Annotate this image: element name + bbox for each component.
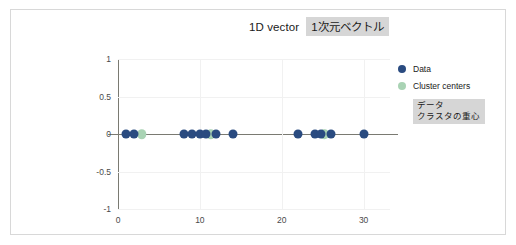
legend-annotation-japanese: データ クラスタの重心 xyxy=(413,99,485,124)
y-axis-tick-label: 0 xyxy=(106,129,111,139)
data-point xyxy=(130,130,139,139)
y-axis-tick-label: -1 xyxy=(103,204,111,214)
title-annotation-japanese: 1次元ベクトル xyxy=(306,17,388,36)
gridline-vertical xyxy=(282,59,283,209)
x-axis-tick-label: 10 xyxy=(195,215,204,225)
legend-label-cluster-centers: Cluster centers xyxy=(413,81,470,91)
legend-item-cluster-centers: Cluster centers xyxy=(398,77,508,94)
data-point xyxy=(326,130,335,139)
x-axis-tick-label: 30 xyxy=(359,215,368,225)
y-axis-tick-label: -0.5 xyxy=(96,167,111,177)
x-axis-tick-label: 0 xyxy=(116,215,121,225)
x-axis-line xyxy=(108,134,398,135)
x-axis-tick-label: 20 xyxy=(277,215,286,225)
gridline-horizontal xyxy=(118,97,390,98)
data-point xyxy=(228,130,237,139)
data-point xyxy=(294,130,303,139)
page-title: 1D vector xyxy=(249,21,299,33)
y-axis-tick-label: 1 xyxy=(106,54,111,64)
data-point xyxy=(317,130,326,139)
legend-note-line-2: クラスタの重心 xyxy=(417,111,481,122)
chart-screenshot: 1D vector 1次元ベクトル 10.50-0.5-10102030 Dat… xyxy=(0,0,516,245)
chart-legend: Data Cluster centers データ クラスタの重心 xyxy=(398,60,508,124)
y-axis-tick-label: 0.5 xyxy=(99,92,111,102)
chart-title: 1D vector 1次元ベクトル xyxy=(249,17,389,36)
legend-note-line-1: データ xyxy=(417,100,481,111)
data-dot-icon xyxy=(398,65,406,73)
plot-area: 10.50-0.5-10102030 xyxy=(118,59,390,209)
data-point xyxy=(212,130,221,139)
data-point xyxy=(202,130,211,139)
gridline-horizontal xyxy=(118,172,390,173)
cluster-center-dot-icon xyxy=(398,82,406,90)
legend-label-data: Data xyxy=(413,64,431,74)
legend-item-data: Data xyxy=(398,60,508,77)
gridline-horizontal xyxy=(118,59,390,60)
gridline-horizontal xyxy=(118,209,390,210)
data-point xyxy=(359,130,368,139)
